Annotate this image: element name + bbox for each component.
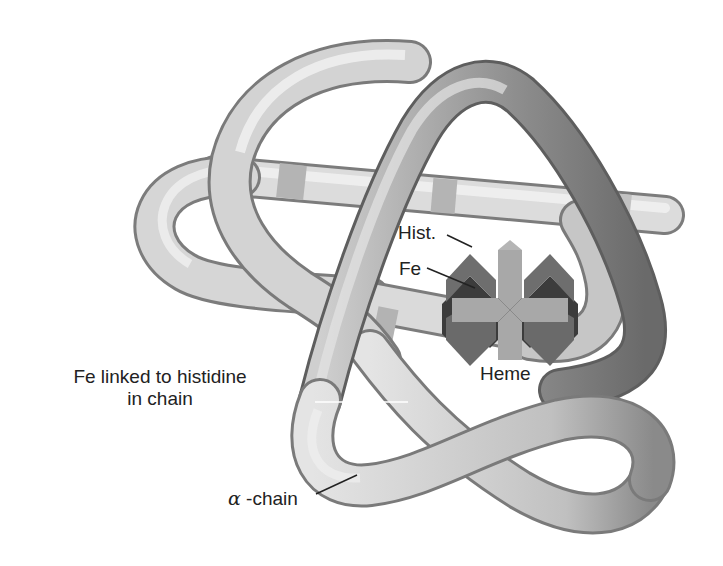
heme-label: Heme bbox=[480, 363, 531, 385]
fe-label: Fe bbox=[399, 258, 421, 280]
protein-diagram: Fe linked to histidine in chain Hist. Fe… bbox=[0, 0, 723, 566]
alpha-chain-text: -chain bbox=[241, 488, 298, 509]
alpha-chain-label: α -chain bbox=[228, 487, 298, 510]
fe-linked-line1: Fe linked to histidine bbox=[30, 366, 290, 388]
hist-leader-line bbox=[447, 235, 472, 247]
alpha-symbol: α bbox=[228, 487, 241, 509]
fe-linked-line2: in chain bbox=[30, 388, 290, 410]
fe-linked-annotation: Fe linked to histidine in chain bbox=[30, 366, 290, 410]
hist-label: Hist. bbox=[398, 222, 436, 244]
heme-group bbox=[442, 240, 578, 366]
alpha-chain-tube-illustration bbox=[0, 0, 723, 566]
